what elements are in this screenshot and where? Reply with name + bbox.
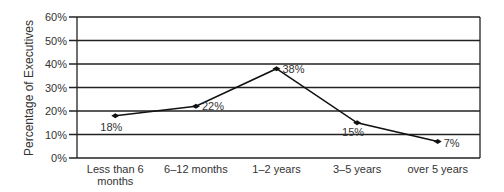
y-tick-label: 0% bbox=[51, 152, 67, 164]
y-tick-label: 50% bbox=[45, 35, 67, 47]
y-tick-label: 40% bbox=[45, 58, 67, 70]
line-chart: 0%10%20%30%40%50%60% Less than 6months6–… bbox=[0, 0, 504, 192]
x-axis: Less than 6months6–12 months1–2 years3–5… bbox=[87, 163, 469, 187]
data-label: 22% bbox=[202, 100, 224, 112]
x-tick-label: Less than 6months bbox=[87, 163, 144, 187]
data-label: 15% bbox=[342, 126, 364, 138]
data-label: 38% bbox=[283, 63, 305, 75]
data-label: 18% bbox=[100, 121, 122, 133]
y-tick-label: 20% bbox=[45, 105, 67, 117]
y-tick-label: 60% bbox=[45, 11, 67, 23]
y-tick-label: 10% bbox=[45, 129, 67, 141]
y-tick-label: 30% bbox=[45, 82, 67, 94]
x-tick-label: 6–12 months bbox=[164, 163, 228, 175]
data-label: 7% bbox=[444, 137, 460, 149]
series-line bbox=[115, 69, 437, 142]
x-tick-label: over 5 years bbox=[407, 163, 468, 175]
data-point-marker bbox=[111, 113, 119, 118]
x-tick-label: 1–2 years bbox=[252, 163, 301, 175]
data-point-marker bbox=[434, 139, 442, 144]
x-tick-label: 3–5 years bbox=[333, 163, 382, 175]
y-axis-label: Percentage of Executives bbox=[22, 20, 36, 156]
data-series: 18%22%38%15%7% bbox=[100, 63, 460, 149]
